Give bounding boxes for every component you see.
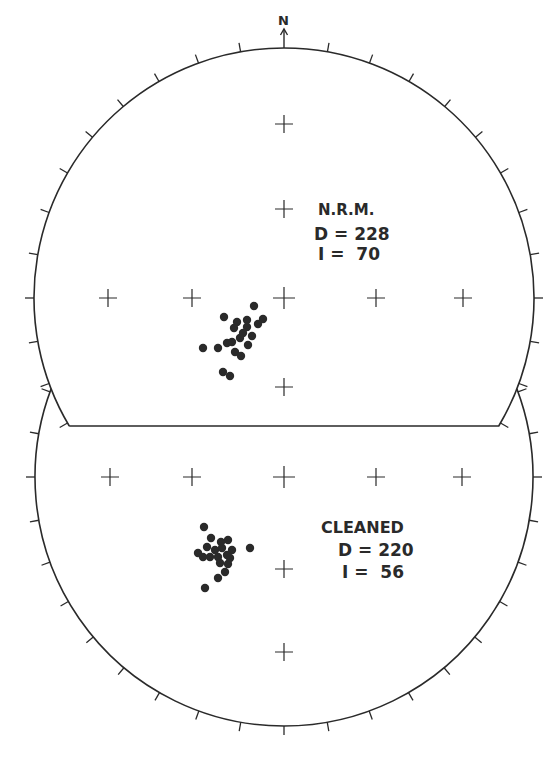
- data-point: [228, 338, 236, 346]
- tick-mark: [518, 389, 526, 392]
- grid-cross-icon: [183, 468, 201, 486]
- tick-mark: [42, 389, 50, 392]
- grid-cross-icon: [275, 200, 293, 218]
- data-point: [248, 332, 256, 340]
- grid-cross-icon: [99, 289, 117, 307]
- tick-mark: [445, 100, 451, 107]
- north-label: N: [278, 13, 289, 28]
- upper-net-inclination: I = 70: [318, 244, 380, 264]
- grid-cross-icon: [273, 466, 295, 488]
- north-indicator: N: [278, 13, 289, 48]
- tick-mark: [501, 423, 509, 428]
- data-point: [226, 372, 234, 380]
- tick-mark: [60, 169, 68, 174]
- tick-mark: [239, 43, 241, 52]
- data-point: [214, 344, 222, 352]
- data-point: [203, 543, 211, 551]
- tick-mark: [500, 602, 508, 607]
- grid-cross-icon: [367, 289, 385, 307]
- grid-cross-icon: [367, 468, 385, 486]
- data-point: [246, 544, 254, 552]
- upper-net-outline: [34, 48, 534, 426]
- data-point: [207, 534, 215, 542]
- grid-cross-icon: [101, 468, 119, 486]
- tick-mark: [41, 384, 49, 387]
- data-point: [199, 344, 207, 352]
- grid-cross-icon: [454, 289, 472, 307]
- data-point: [236, 334, 244, 342]
- grid-cross-icon: [453, 468, 471, 486]
- data-point: [214, 574, 222, 582]
- tick-mark: [370, 55, 373, 63]
- tick-mark: [42, 562, 50, 565]
- grid-cross-icon: [275, 378, 293, 396]
- tick-mark: [518, 562, 526, 565]
- lower-net-inclination: I = 56: [342, 562, 404, 582]
- upper-net-title: N.R.M.: [318, 201, 374, 219]
- tick-mark: [196, 711, 199, 719]
- data-point: [200, 523, 208, 531]
- tick-mark: [29, 341, 38, 343]
- tick-mark: [195, 55, 198, 63]
- tick-mark: [61, 602, 69, 607]
- tick-mark: [369, 711, 372, 719]
- tick-mark: [529, 432, 538, 434]
- tick-mark: [530, 341, 539, 343]
- upper-stereonet-nrm: N.R.M. D = 228 I = 70: [25, 43, 543, 428]
- tick-mark: [476, 132, 483, 138]
- data-point: [206, 553, 214, 561]
- grid-cross-icon: [275, 115, 293, 133]
- stereonet-figure: N.R.M. D = 228 I = 70 CLEANED D = 220 I …: [0, 0, 552, 758]
- grid-cross-icon: [275, 643, 293, 661]
- north-arrow-icon: [281, 29, 288, 48]
- data-point: [201, 584, 209, 592]
- lower-net-declination: D = 220: [338, 540, 414, 560]
- tick-mark: [86, 637, 93, 643]
- lower-net-data-points: [194, 523, 254, 592]
- data-point: [244, 341, 252, 349]
- data-point: [216, 559, 224, 567]
- upper-net-grid-crosses: [99, 115, 472, 396]
- upper-net-declination: D = 228: [314, 224, 390, 244]
- tick-mark: [409, 74, 414, 82]
- tick-mark: [30, 520, 39, 522]
- tick-mark: [444, 668, 450, 675]
- tick-mark: [519, 209, 527, 212]
- data-point: [220, 313, 228, 321]
- data-point: [254, 320, 262, 328]
- tick-mark: [327, 722, 329, 731]
- data-point: [221, 568, 229, 576]
- tick-mark: [529, 520, 538, 522]
- data-point: [218, 544, 226, 552]
- lower-stereonet-cleaned: CLEANED D = 220 I = 56: [26, 389, 542, 735]
- tick-mark: [30, 432, 39, 434]
- tick-mark: [501, 169, 509, 174]
- data-point: [224, 560, 232, 568]
- data-point: [237, 352, 245, 360]
- grid-cross-icon: [183, 289, 201, 307]
- tick-mark: [118, 668, 124, 675]
- lower-net-outline: [35, 389, 533, 726]
- tick-mark: [409, 693, 414, 701]
- data-point: [230, 324, 238, 332]
- lower-net-grid-crosses: [101, 466, 471, 661]
- data-point: [250, 302, 258, 310]
- tick-mark: [41, 209, 49, 212]
- tick-mark: [29, 253, 38, 255]
- grid-cross-icon: [273, 287, 295, 309]
- tick-mark: [155, 74, 160, 82]
- tick-mark: [239, 722, 241, 731]
- lower-net-title: CLEANED: [321, 518, 404, 537]
- upper-net-data-points: [199, 302, 267, 380]
- grid-cross-icon: [275, 560, 293, 578]
- tick-mark: [530, 253, 539, 255]
- tick-mark: [118, 100, 124, 107]
- tick-mark: [60, 423, 68, 428]
- tick-mark: [475, 637, 482, 643]
- tick-mark: [86, 132, 93, 138]
- tick-mark: [155, 693, 160, 701]
- tick-mark: [519, 384, 527, 387]
- upper-net-tick-marks: [25, 43, 543, 428]
- tick-mark: [327, 43, 329, 52]
